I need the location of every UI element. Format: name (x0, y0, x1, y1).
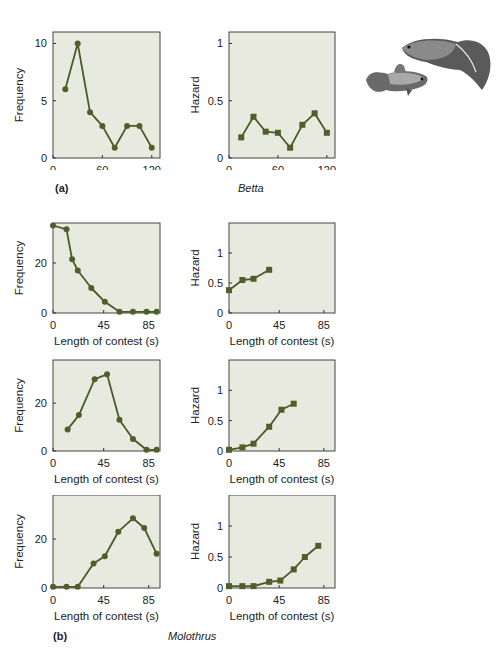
y-axis-label: Frequency (13, 241, 25, 296)
data-point-marker (278, 407, 284, 413)
chart-betta-frequency: 0510060120Length of contest (s)Frequency (0, 10, 180, 170)
data-point-marker (124, 123, 130, 129)
y-tick-label: 5 (41, 95, 47, 107)
data-point-marker (64, 584, 70, 590)
y-tick-label: 0 (217, 307, 223, 319)
data-point-marker (149, 145, 155, 151)
chart-svg: 0510060120Length of contest (s)Frequency (0, 10, 180, 170)
data-point-marker (130, 436, 136, 442)
data-point-marker (104, 371, 110, 377)
data-point-marker (143, 447, 149, 453)
data-point-marker (238, 134, 244, 140)
x-tick-label: 0 (226, 319, 232, 331)
data-point-marker (154, 309, 160, 315)
x-tick-label: 0 (226, 164, 232, 170)
betta-fish-illustration (360, 30, 500, 100)
data-point-marker (115, 529, 121, 535)
y-axis-label: Frequency (13, 514, 25, 569)
x-tick-label: 45 (273, 457, 285, 469)
x-axis-label: Length of contest (s) (230, 473, 335, 485)
data-point-marker (143, 309, 149, 315)
x-tick-label: 85 (143, 594, 155, 606)
data-point-marker (266, 579, 272, 585)
data-point-marker (75, 584, 81, 590)
data-point-marker (91, 561, 97, 567)
x-tick-label: 0 (226, 594, 232, 606)
data-point-marker (266, 267, 272, 273)
x-tick-label: 45 (273, 594, 285, 606)
data-point-marker (287, 145, 293, 151)
data-point-marker (75, 40, 81, 46)
data-point-marker (239, 444, 245, 450)
x-tick-label: 120 (318, 164, 336, 170)
chart-svg: 00.51060120Length of contest (s)Hazard (180, 10, 360, 170)
data-point-marker (116, 309, 122, 315)
chart-molothrus-hazard-1: 00.5104585Length of contest (s)Hazard (180, 210, 360, 350)
y-tick-label: 20 (35, 397, 47, 409)
chart-molothrus-hazard-2: 00.5104585Length of contest (s)Hazard (180, 355, 360, 490)
x-axis-label: Length of contest (s) (54, 610, 159, 622)
data-point-marker (112, 145, 118, 151)
data-point-marker (50, 584, 56, 590)
data-point-marker (65, 426, 71, 432)
data-point-marker (302, 554, 308, 560)
x-axis-label: Length of contest (s) (230, 335, 335, 347)
data-point-marker (251, 276, 257, 282)
chart-molothrus-frequency-2: 02004585Length of contest (s)Frequency (0, 355, 180, 490)
x-tick-label: 85 (143, 319, 155, 331)
data-point-marker (62, 86, 68, 92)
data-point-marker (239, 277, 245, 283)
data-point-marker (226, 583, 232, 589)
chart-molothrus-frequency-3: 02004585Length of contest (s)Frequency (0, 495, 180, 630)
x-tick-label: 0 (226, 457, 232, 469)
data-point-marker (130, 309, 136, 315)
y-tick-label: 1 (217, 37, 223, 49)
y-tick-label: 1 (217, 247, 223, 259)
y-tick-label: 20 (35, 257, 47, 269)
data-point-marker (154, 551, 160, 557)
data-point-marker (50, 223, 56, 229)
species-label-betta: Betta (238, 182, 264, 194)
data-point-marker (102, 553, 108, 559)
y-axis-label: Hazard (189, 387, 201, 424)
x-tick-label: 85 (143, 457, 155, 469)
data-point-marker (76, 412, 82, 418)
data-point-marker (141, 525, 147, 531)
data-point-marker (99, 123, 105, 129)
betta-fish-icon (360, 30, 500, 100)
x-tick-label: 85 (318, 594, 330, 606)
data-point-marker (277, 578, 283, 584)
y-tick-label: 0 (41, 445, 47, 457)
y-tick-label: 0 (41, 307, 47, 319)
chart-svg: 02004585Length of contest (s)Frequency (0, 210, 180, 350)
data-point-marker (291, 401, 297, 407)
x-tick-label: 60 (272, 164, 284, 170)
data-point-marker (136, 123, 142, 129)
data-point-marker (64, 226, 70, 232)
y-axis-label: Hazard (189, 249, 201, 286)
chart-svg: 02004585Length of contest (s)Frequency (0, 495, 180, 630)
x-tick-label: 85 (318, 457, 330, 469)
data-point-marker (116, 417, 122, 423)
data-point-marker (75, 268, 81, 274)
plot-area (229, 360, 335, 451)
y-tick-label: 0 (41, 152, 47, 164)
y-tick-label: 0.5 (208, 277, 223, 289)
y-tick-label: 0.5 (208, 415, 223, 427)
y-tick-label: 1 (217, 384, 223, 396)
chart-molothrus-frequency-1: 02004585Length of contest (s)Frequency (0, 210, 180, 350)
data-point-marker (291, 566, 297, 572)
y-axis-label: Hazard (189, 76, 201, 113)
data-point-marker (251, 583, 257, 589)
x-tick-label: 45 (98, 594, 110, 606)
y-tick-label: 0 (217, 445, 223, 457)
data-point-marker (88, 285, 94, 291)
x-tick-label: 45 (273, 319, 285, 331)
y-tick-label: 0 (217, 582, 223, 594)
data-point-marker (266, 424, 272, 430)
data-point-marker (239, 583, 245, 589)
chart-svg: 00.5104585Length of contest (s)Hazard (180, 495, 360, 630)
chart-betta-hazard: 00.51060120Length of contest (s)Hazard (180, 10, 360, 170)
x-tick-label: 120 (143, 164, 161, 170)
panel-label-b: (b) (53, 630, 67, 642)
